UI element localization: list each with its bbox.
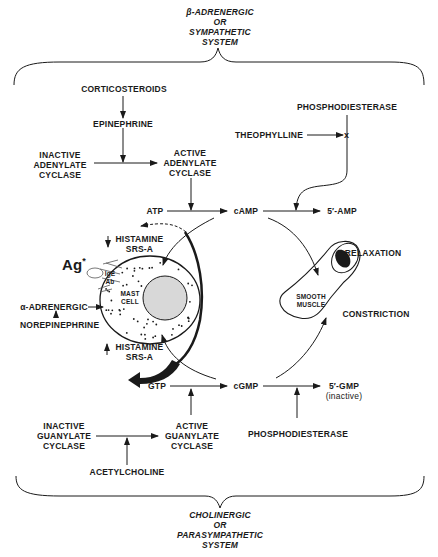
corticosteroids-label: CORTICOSTEROIDS: [78, 84, 170, 94]
granule: [151, 267, 153, 269]
constriction-label: CONSTRICTION: [338, 309, 414, 319]
phosphodiesterase-bottom-label: PHOSPHODIESTERASE: [246, 429, 350, 439]
arrow-cgmp-smoothmuscle: [276, 318, 326, 378]
camp-label: cAMP: [231, 206, 261, 216]
granule: [119, 310, 121, 312]
granule: [159, 262, 161, 264]
arrow-dashed-histamine: [141, 224, 186, 232]
histamine-up-label: HISTAMINE SRS-A: [112, 342, 167, 362]
bottom-brace: [16, 476, 424, 508]
epinephrine-label: EPINEPHRINE: [90, 119, 156, 129]
bottom-system-label: CHOLINERGIC OR PARASYMPATHETIC SYSTEM: [170, 510, 270, 550]
arrow-camp-smoothmuscle: [268, 218, 318, 275]
granule: [191, 284, 193, 286]
norepinephrine-label: NOREPINEPHRINE: [20, 320, 98, 330]
granule: [105, 288, 107, 290]
relaxation-label: RELAXATION: [338, 248, 408, 258]
theophylline-label: THEOPHYLLINE: [234, 130, 304, 140]
ige-label: IgE Ab: [103, 270, 117, 286]
granule: [108, 309, 110, 311]
granule: [126, 332, 128, 334]
granule: [189, 301, 191, 303]
granule: [188, 320, 190, 322]
granule: [152, 337, 154, 339]
granule: [143, 327, 145, 329]
granule: [134, 270, 136, 272]
alpha-adrenergic-label: α-ADRENERGIC: [20, 302, 88, 312]
granule: [154, 335, 156, 337]
granule: [187, 317, 189, 319]
acetylcholine-label: ACETYLCHOLINE: [88, 467, 166, 477]
granule: [187, 283, 189, 285]
5gmp-label: 5′-GMP (inactive): [322, 381, 366, 401]
granule: [152, 321, 154, 323]
granule: [155, 324, 157, 326]
granule: [111, 300, 113, 302]
granule: [134, 268, 136, 270]
phosphodiesterase-top-label: PHOSPHODIESTERASE: [295, 102, 399, 112]
antigen-label: Ag*: [58, 256, 90, 270]
granule: [142, 268, 144, 270]
granule: [144, 338, 146, 340]
granule: [146, 323, 148, 325]
inactive-guanylate-label: INACTIVE GUANYLATE CYCLASE: [32, 421, 96, 451]
granule: [123, 308, 125, 310]
granule: [126, 284, 128, 286]
5amp-label: 5′-AMP: [322, 206, 362, 216]
granule: [149, 267, 151, 269]
granule: [138, 280, 140, 282]
granule: [105, 309, 107, 311]
granule: [178, 269, 180, 271]
smooth-muscle-label: SMOOTH MUSCLE: [296, 293, 326, 309]
atp-label: ATP: [145, 206, 165, 216]
active-adenylate-label: ACTIVE ADENYLATE CYCLASE: [158, 148, 222, 178]
granule: [140, 334, 142, 336]
mast-cell-nucleus: [143, 276, 187, 320]
granule: [122, 285, 124, 287]
granule: [181, 325, 183, 327]
cgmp-label: cGMP: [230, 381, 262, 391]
block-mark: x: [344, 130, 349, 140]
pathway-diagram: x: [0, 0, 438, 557]
granule: [110, 313, 112, 315]
granule: [147, 319, 149, 321]
histamine-down-label: HISTAMINE SRS-A: [112, 234, 167, 254]
granule: [137, 321, 139, 323]
granule: [121, 272, 123, 274]
top-brace: [14, 48, 424, 85]
granule: [144, 334, 146, 336]
granule: [126, 268, 128, 270]
granule: [171, 334, 173, 336]
granule: [111, 309, 113, 311]
active-guanylate-label: ACTIVE GUANYLATE CYCLASE: [160, 421, 224, 451]
granule: [119, 314, 121, 316]
granule: [108, 291, 110, 293]
granule: [141, 285, 143, 287]
granule: [139, 267, 141, 269]
inactive-adenylate-label: INACTIVE ADENYLATE CYCLASE: [28, 150, 92, 180]
granule: [132, 275, 134, 277]
granule: [133, 318, 135, 320]
gtp-label: GTP: [146, 381, 168, 391]
granule: [172, 328, 174, 330]
top-system-label: β-ADRENERGIC OR SYMPATHETIC SYSTEM: [185, 7, 255, 47]
mast-cell-label: MAST CELL: [118, 290, 142, 306]
granule: [178, 324, 180, 326]
